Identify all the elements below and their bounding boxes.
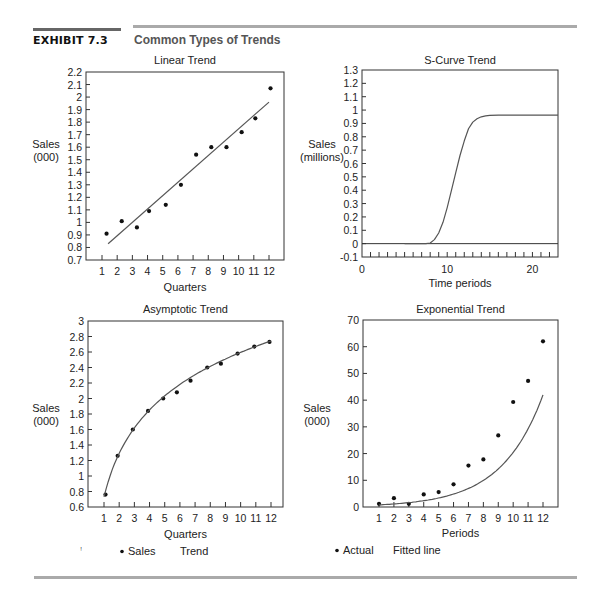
y-tick-label: 2.2	[67, 66, 82, 78]
plot-frame	[362, 70, 558, 257]
data-point	[188, 379, 192, 383]
x-tick-label: 11	[523, 512, 534, 524]
y-axis-label-unit: (millions)	[300, 151, 344, 163]
x-tick-label: 0	[359, 263, 365, 275]
y-tick-label: 1.9	[67, 104, 82, 116]
data-point	[104, 232, 108, 236]
data-point	[526, 379, 530, 383]
series-line	[405, 115, 558, 244]
data-point	[481, 457, 485, 461]
y-tick-label: 2.8	[69, 331, 84, 343]
y-tick-label: 0.3	[343, 198, 358, 210]
y-axis-label: Sales	[32, 402, 60, 414]
legend: SalesTrend	[120, 545, 208, 557]
x-tick-label: 5	[436, 512, 442, 524]
y-tick-label: 1.8	[69, 408, 84, 420]
y-tick-label: 1.4	[69, 439, 84, 451]
x-tick-label: 6	[175, 265, 181, 277]
stray-mark: !	[80, 546, 82, 552]
x-axis-label: Periods	[442, 527, 480, 539]
legend-label-line: Fitted line	[393, 544, 441, 556]
x-axis-label: Quarters	[164, 281, 207, 293]
y-tick-label: 50	[347, 367, 359, 379]
plot-frame	[86, 72, 284, 260]
x-tick-label: 8	[480, 512, 486, 524]
y-tick-label: 0.9	[67, 229, 82, 241]
y-axis-label: Sales	[32, 138, 60, 150]
data-point	[466, 463, 470, 467]
data-point	[437, 490, 441, 494]
x-tick-label: 1	[376, 512, 382, 524]
x-tick-label: 8	[207, 512, 213, 524]
chart-linear: Linear Trend0.70.80.911.11.21.31.41.51.6…	[32, 54, 284, 293]
y-tick-label: 1.3	[67, 179, 82, 191]
data-point	[240, 130, 244, 134]
legend-dot-marker	[120, 550, 124, 554]
y-tick-label: 0.5	[343, 171, 358, 183]
x-tick-label: 3	[131, 512, 137, 524]
x-tick-label: 10	[233, 265, 245, 277]
y-tick-label: 1.3	[343, 64, 358, 76]
x-tick-label: 11	[248, 265, 259, 277]
data-point	[541, 339, 545, 343]
y-tick-label: 0.6	[69, 501, 84, 513]
y-axis-label-unit: (000)	[33, 415, 59, 427]
y-tick-label: 2	[78, 393, 84, 405]
data-point	[175, 390, 179, 394]
x-tick-label: 20	[527, 263, 539, 275]
x-tick-label: 9	[221, 265, 227, 277]
x-tick-label: 2	[391, 512, 397, 524]
chart-title: Exponential Trend	[416, 303, 505, 315]
x-axis-label: Time periods	[428, 277, 492, 289]
y-tick-label: 1	[76, 216, 82, 228]
y-tick-label: 1.2	[69, 455, 84, 467]
y-tick-label: 30	[347, 421, 359, 433]
y-tick-label: 1.2	[67, 191, 82, 203]
y-tick-label: 1.6	[67, 141, 82, 153]
y-tick-label: 70	[347, 314, 359, 326]
data-point	[164, 203, 168, 207]
y-tick-label: 2.4	[69, 362, 84, 374]
y-tick-label: 0.8	[343, 131, 358, 143]
x-tick-label: 8	[205, 265, 211, 277]
y-tick-label: 1	[78, 470, 84, 482]
y-tick-label: 1.1	[67, 204, 82, 216]
x-tick-label: 5	[160, 265, 166, 277]
data-point	[392, 496, 396, 500]
y-tick-label: 0.7	[343, 144, 358, 156]
x-axis-label: Quarters	[164, 528, 207, 540]
y-axis-label: Sales	[308, 138, 336, 150]
x-tick-label: 6	[451, 512, 457, 524]
data-point	[120, 219, 124, 223]
y-tick-label: 0.1	[343, 224, 358, 236]
y-tick-label: 2.2	[69, 377, 84, 389]
chart-scurve: S-Curve Trend-0.100.10.20.30.40.50.60.70…	[300, 54, 558, 289]
plot-frame	[88, 321, 283, 507]
y-tick-label: 0	[352, 238, 358, 250]
x-tick-label: 7	[192, 512, 198, 524]
x-tick-label: 3	[129, 265, 135, 277]
x-tick-label: 4	[421, 512, 427, 524]
x-tick-label: 12	[265, 512, 277, 524]
y-tick-label: 40	[347, 394, 359, 406]
x-tick-label: 12	[537, 512, 549, 524]
chart-asymptotic: Asymptotic Trend0.60.811.21.41.61.822.22…	[32, 303, 283, 540]
y-tick-label: 0.8	[67, 241, 82, 253]
fitted-curve	[104, 341, 271, 497]
y-tick-label: 1	[352, 104, 358, 116]
chart-title: Asymptotic Trend	[143, 303, 228, 315]
x-tick-label: 4	[145, 265, 151, 277]
data-point	[451, 482, 455, 486]
legend-label-points: Sales	[128, 545, 156, 557]
data-point	[268, 86, 272, 90]
data-point	[422, 492, 426, 496]
x-tick-label: 9	[223, 512, 229, 524]
y-tick-label: -0.1	[340, 251, 358, 263]
y-tick-label: 1.6	[69, 424, 84, 436]
y-tick-label: 0.9	[343, 117, 358, 129]
x-tick-label: 10	[235, 512, 247, 524]
x-tick-label: 3	[406, 512, 412, 524]
y-tick-label: 0.7	[67, 254, 82, 266]
x-tick-label: 1	[99, 265, 105, 277]
chart-title: S-Curve Trend	[424, 54, 496, 66]
